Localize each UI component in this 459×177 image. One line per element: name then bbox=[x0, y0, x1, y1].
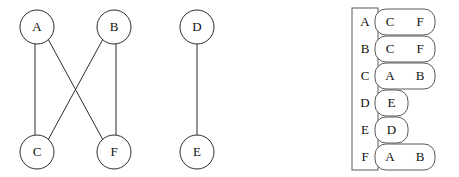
adjacency-box-c bbox=[375, 63, 435, 89]
adjacency-box-a bbox=[375, 9, 435, 35]
graph-and-adjacency-list-figure: ABDCFE ABCDEF CFCFABEDAB bbox=[0, 0, 459, 177]
adjacency-neighbor-e-d: D bbox=[387, 122, 396, 137]
adjacency-row-a: CF bbox=[375, 9, 435, 35]
figure-root: ABDCFE ABCDEF CFCFABEDAB bbox=[0, 0, 459, 177]
graph-edges bbox=[35, 39, 197, 140]
adjacency-neighbor-b-c: C bbox=[386, 41, 395, 56]
adjacency-box-b bbox=[375, 36, 435, 62]
adjacency-index-label-d: D bbox=[360, 95, 369, 110]
graph-nodes: ABDCFE bbox=[20, 10, 214, 169]
adjacency-neighbor-b-f: F bbox=[416, 41, 423, 56]
adjacency-neighbor-f-a: A bbox=[385, 149, 395, 164]
adjacency-neighbor-f-b: B bbox=[416, 149, 425, 164]
graph-node-a: A bbox=[20, 10, 54, 44]
adjacency-row-f: AB bbox=[375, 144, 435, 170]
adjacency-index-label-a: A bbox=[360, 14, 370, 29]
node-label-e: E bbox=[193, 144, 201, 159]
adjacency-index-label-c: C bbox=[361, 68, 370, 83]
adjacency-index-column: ABCDEF bbox=[352, 8, 378, 170]
adjacency-neighbor-c-a: A bbox=[385, 68, 395, 83]
graph-node-d: D bbox=[180, 10, 214, 44]
node-label-d: D bbox=[192, 19, 201, 34]
adjacency-row-b: CF bbox=[375, 36, 435, 62]
adjacency-neighbor-a-f: F bbox=[416, 14, 423, 29]
adjacency-row-d: E bbox=[375, 90, 408, 116]
adjacency-row-c: AB bbox=[375, 63, 435, 89]
adjacency-index-label-b: B bbox=[361, 41, 370, 56]
adjacency-neighbor-a-c: C bbox=[386, 14, 395, 29]
graph-node-b: B bbox=[97, 10, 131, 44]
adjacency-index-label-f: F bbox=[361, 149, 368, 164]
node-label-c: C bbox=[33, 144, 42, 159]
graph-node-e: E bbox=[180, 135, 214, 169]
adjacency-neighbor-boxes: CFCFABEDAB bbox=[375, 9, 435, 170]
adjacency-neighbor-d-e: E bbox=[388, 95, 396, 110]
graph-node-f: F bbox=[97, 135, 131, 169]
adjacency-neighbor-c-b: B bbox=[416, 68, 425, 83]
node-label-a: A bbox=[32, 19, 42, 34]
adjacency-box-f bbox=[375, 144, 435, 170]
adjacency-row-e: D bbox=[375, 117, 408, 143]
adjacency-index-column-border bbox=[352, 8, 378, 170]
node-label-f: F bbox=[110, 144, 117, 159]
graph-node-c: C bbox=[20, 135, 54, 169]
node-label-b: B bbox=[110, 19, 119, 34]
adjacency-index-label-e: E bbox=[361, 122, 369, 137]
